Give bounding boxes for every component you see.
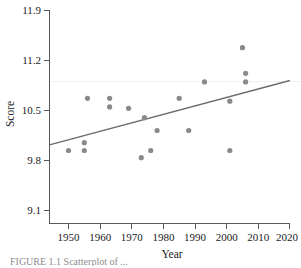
y-tick-label-9.8: 9.8: [27, 154, 41, 166]
data-point-group: [66, 45, 248, 160]
data-point: [227, 148, 232, 153]
y-tick-label-11.2: 11.2: [22, 54, 41, 66]
data-point: [227, 99, 232, 104]
scatter-chart: 11.9 11.2 10.5 9.8 9.1 Score 1950 1960 1…: [0, 0, 301, 268]
data-point: [85, 96, 90, 101]
data-point: [243, 71, 248, 76]
y-tick-label-10.5: 10.5: [22, 104, 42, 116]
x-tick-label-1990: 1990: [184, 231, 207, 243]
x-tick-label-1980: 1980: [152, 231, 175, 243]
x-tick-label-2000: 2000: [216, 231, 239, 243]
data-point: [243, 79, 248, 84]
figure-caption: FIGURE 1.1 Scatterplot of ...: [10, 256, 240, 266]
y-tick-label-9.1: 9.1: [27, 204, 41, 216]
x-tick-label-2020: 2020: [276, 231, 299, 243]
data-point: [66, 148, 71, 153]
data-point: [202, 79, 207, 84]
data-point: [126, 106, 131, 111]
data-point: [148, 148, 153, 153]
figure-container: 11.9 11.2 10.5 9.8 9.1 Score 1950 1960 1…: [0, 0, 301, 268]
data-point: [186, 128, 191, 133]
y-axis: 11.9 11.2 10.5 9.8 9.1 Score: [4, 4, 50, 224]
data-point: [154, 128, 159, 133]
data-point: [142, 115, 147, 120]
x-axis: 1950 1960 1970 1980 1990 2000 2010 2020 …: [50, 224, 299, 261]
data-point: [139, 155, 144, 160]
trend-line: [50, 81, 290, 145]
x-tick-label-1950: 1950: [58, 231, 81, 243]
data-point: [107, 96, 112, 101]
data-point: [177, 96, 182, 101]
data-point: [107, 104, 112, 109]
x-tick-label-1970: 1970: [121, 231, 144, 243]
data-point: [82, 140, 87, 145]
x-tick-label-1960: 1960: [89, 231, 112, 243]
y-axis-title: Score: [4, 101, 16, 127]
x-tick-label-2010: 2010: [247, 231, 270, 243]
y-tick-label-11.9: 11.9: [22, 4, 41, 16]
data-point: [240, 45, 245, 50]
data-point: [82, 148, 87, 153]
